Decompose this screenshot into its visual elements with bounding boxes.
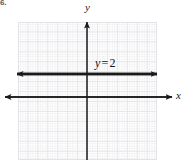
line-equation-operator: = — [101, 56, 110, 70]
y-axis-label: y — [85, 1, 90, 13]
graph-overlay — [0, 0, 181, 168]
line-equation-value: 2 — [110, 56, 116, 70]
line-equation-label: y=2 — [95, 57, 116, 70]
x-axis-label: x — [176, 89, 181, 101]
line-equation-variable: y — [95, 56, 101, 70]
coordinate-grid-figure: 6. y x y=2 — [0, 0, 181, 168]
